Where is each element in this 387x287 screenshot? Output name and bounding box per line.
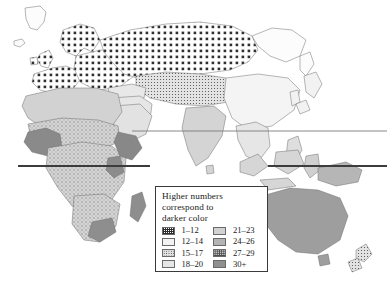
legend-title-line-2: correspond to — [162, 202, 262, 213]
legend-swatch-21-23 — [213, 227, 226, 235]
region-ireland — [30, 57, 38, 65]
legend-label-18-20: 18–20 — [182, 259, 211, 270]
region-tasmania — [318, 254, 330, 266]
legend-swatch-12-14 — [162, 238, 175, 246]
legend-title-line-1: Higher numbers — [162, 191, 262, 202]
legend-swatch-1-12 — [162, 227, 175, 235]
legend-title-line-3: darker color — [162, 213, 262, 224]
region-sri-lanka — [206, 165, 214, 174]
legend-label-21-23: 21–23 — [233, 225, 262, 236]
legend-label-27-29: 27–29 — [233, 248, 262, 259]
legend-swatch-24-26 — [213, 238, 226, 246]
map-legend: Higher numbers correspond to darker colo… — [155, 186, 268, 272]
legend-swatch-15-17 — [162, 249, 175, 257]
legend-swatch-18-20 — [162, 260, 175, 268]
legend-label-15-17: 15–17 — [182, 248, 211, 259]
legend-label-24-26: 24–26 — [233, 236, 262, 247]
legend-swatch-27-29 — [213, 249, 226, 257]
legend-swatch-30-plus — [213, 260, 226, 268]
world-map-figure: Higher numbers correspond to darker colo… — [0, 0, 387, 287]
legend-entries: 1–12 21–23 12–14 24–26 15–17 27–29 18–20… — [162, 225, 262, 270]
legend-label-30-plus: 30+ — [233, 259, 262, 270]
legend-label-12-14: 12–14 — [182, 236, 211, 247]
legend-label-1-12: 1–12 — [182, 225, 211, 236]
